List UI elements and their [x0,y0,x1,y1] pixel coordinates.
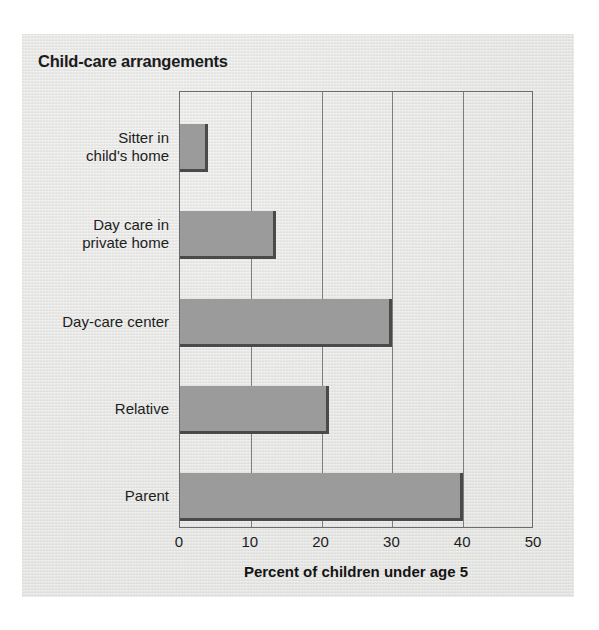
bar [180,124,208,172]
x-axis-tick-labels: 01020304050 [179,533,533,557]
bar-row [180,211,534,259]
x-tick-label-50: 50 [525,533,542,550]
bar [180,211,276,259]
category-label: Day-care center [19,313,179,331]
x-tick-label-0: 0 [175,533,183,550]
x-axis-title: Percent of children under age 5 [179,563,533,580]
category-label-line: Relative [19,400,169,418]
category-label-line: child's home [19,147,169,165]
category-label-line: Day care in [19,216,169,234]
x-tick-label-20: 20 [312,533,329,550]
category-label-line: private home [19,234,169,252]
bar [180,473,463,521]
chart-title: Child-care arrangements [38,52,228,71]
bar [180,299,392,347]
category-label: Parent [19,487,179,505]
category-label: Sitter inchild's home [19,129,179,164]
bar [180,386,329,434]
x-tick-label-30: 30 [383,533,400,550]
bar-row [180,124,534,172]
category-axis-labels: Sitter inchild's homeDay care inprivate … [14,91,179,528]
bar-row [180,386,534,434]
plot-area [179,91,533,528]
bar-row [180,299,534,347]
bar-row [180,473,534,521]
category-label-line: Parent [19,487,169,505]
category-label: Day care inprivate home [19,216,179,251]
category-label-line: Day-care center [19,313,169,331]
x-tick-label-10: 10 [241,533,258,550]
category-label-line: Sitter in [19,129,169,147]
category-label: Relative [19,400,179,418]
x-tick-label-40: 40 [454,533,471,550]
